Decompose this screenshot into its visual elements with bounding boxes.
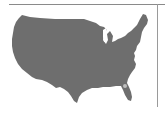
lake-michigan-notch (103, 28, 107, 42)
florida-highlight-spot (123, 84, 127, 88)
us-map (0, 0, 165, 116)
contiguous-us-shape (12, 14, 148, 103)
